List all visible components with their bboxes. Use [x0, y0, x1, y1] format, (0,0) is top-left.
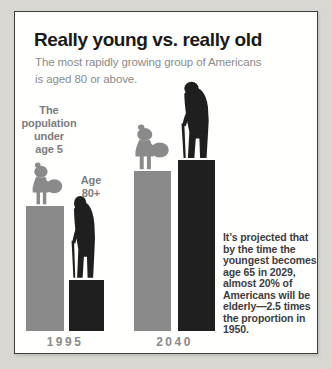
elder-with-cane-icon: [66, 193, 103, 280]
bar-1995-age80plus: [69, 280, 104, 331]
young-group-label: The population under age 5: [18, 104, 80, 156]
elder-with-cane-icon: [175, 79, 218, 160]
chart-subtitle: The most rapidly growing group of Americ…: [35, 54, 261, 87]
bar-2040-age80plus: [178, 160, 215, 331]
projection-annotation: It’s projected that by the time the youn…: [223, 232, 317, 336]
child-with-ball-icon: [129, 123, 172, 171]
chart-card: Really young vs. really old The most rap…: [14, 11, 318, 354]
category-label-1995: 1995: [26, 335, 104, 349]
child-with-ball-icon: [27, 161, 65, 206]
chart-title: Really young vs. really old: [34, 29, 262, 51]
category-label-2040: 2040: [134, 335, 215, 349]
bar-1995-under5: [26, 206, 64, 331]
infographic-canvas: Really young vs. really old The most rap…: [0, 0, 332, 369]
bar-2040-under5: [134, 171, 171, 331]
